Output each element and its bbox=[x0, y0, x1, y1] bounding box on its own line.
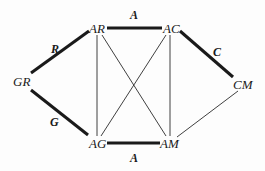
edge-label-r: R bbox=[50, 42, 59, 56]
edge-gr-ar bbox=[31, 31, 89, 73]
node-cm-label: CM bbox=[233, 77, 254, 92]
edge-cm-am bbox=[177, 91, 238, 137]
node-gr-label: GR bbox=[13, 74, 30, 89]
node-ar-label: AR bbox=[88, 21, 105, 36]
edge-label-bottom-a: A bbox=[129, 151, 138, 165]
node-ag-label: AG bbox=[88, 136, 107, 151]
edge-label-top-a: A bbox=[129, 8, 138, 22]
edge-gr-ag bbox=[31, 90, 88, 135]
edge-label-c: C bbox=[213, 45, 222, 59]
node-am-label: AM bbox=[159, 136, 180, 151]
node-ac-label: AC bbox=[162, 21, 180, 36]
graph-diagram: AR AC GR CM AG AM A R C G A bbox=[0, 0, 265, 171]
edge-ac-cm bbox=[180, 31, 233, 77]
edge-label-g: G bbox=[50, 115, 59, 129]
